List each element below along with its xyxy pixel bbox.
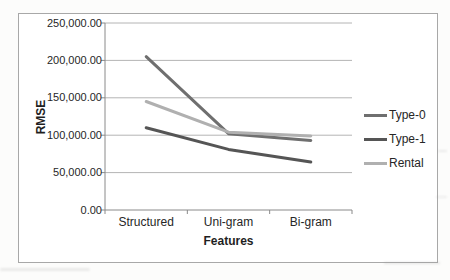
legend-item: Type-1: [364, 127, 436, 151]
y-axis-title: RMSE: [34, 87, 48, 147]
y-axis-tick-label: 0.00: [18, 204, 102, 217]
x-axis-category-label: Structured: [101, 215, 191, 229]
y-axis-tick-label: 200,000.00: [18, 54, 102, 67]
scan-artifact: [438, 150, 447, 152]
y-axis-tick-label: 50,000.00: [18, 166, 102, 179]
x-axis-category-label: Uni-gram: [184, 215, 274, 229]
legend-label: Type-1: [389, 132, 426, 146]
x-axis-category-label: Bi-gram: [266, 215, 356, 229]
legend-line-swatch: [364, 162, 387, 165]
y-axis-tick-label: 100,000.00: [18, 129, 102, 142]
legend-line-swatch: [364, 138, 387, 141]
x-axis-title: Features: [168, 234, 289, 248]
scan-artifact: [384, 262, 440, 264]
scanned-chart-page: 0.0050,000.00100,000.00150,000.00200,000…: [0, 0, 450, 280]
legend-line-swatch: [364, 114, 387, 117]
y-axis-tick-label: 250,000.00: [18, 17, 102, 30]
legend-label: Type-0: [389, 108, 426, 122]
legend: Type-0Type-1Rental: [364, 103, 436, 175]
legend-label: Rental: [389, 156, 424, 170]
scan-artifact: [0, 268, 90, 271]
legend-item: Type-0: [364, 103, 436, 127]
y-axis-tick-label: 150,000.00: [18, 91, 102, 104]
scan-artifact: [436, 196, 447, 198]
legend-item: Rental: [364, 151, 436, 175]
